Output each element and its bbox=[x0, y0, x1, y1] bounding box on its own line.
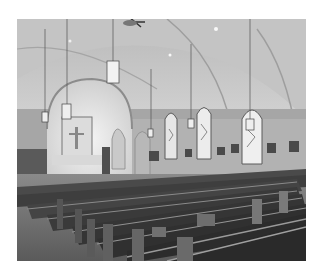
church-interior-photo: Black-and-white photograph of a church i… bbox=[17, 19, 306, 261]
